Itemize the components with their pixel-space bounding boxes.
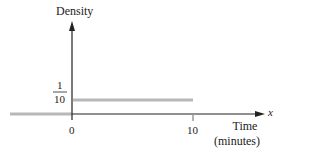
x-tick-label-0: 0 — [69, 125, 75, 136]
x-axis-symbol: x — [268, 107, 273, 118]
x-axis-label-line1: Time — [222, 121, 268, 132]
y-tick-denominator: 10 — [54, 94, 65, 105]
x-tick-label-10: 10 — [187, 125, 198, 136]
y-axis-label: Density — [56, 6, 93, 17]
x-axis-arrow-icon — [255, 111, 265, 117]
y-axis-arrow-icon — [69, 21, 75, 31]
x-axis-label-line2: (minutes) — [214, 136, 260, 147]
y-tick-numerator: 1 — [57, 80, 63, 91]
